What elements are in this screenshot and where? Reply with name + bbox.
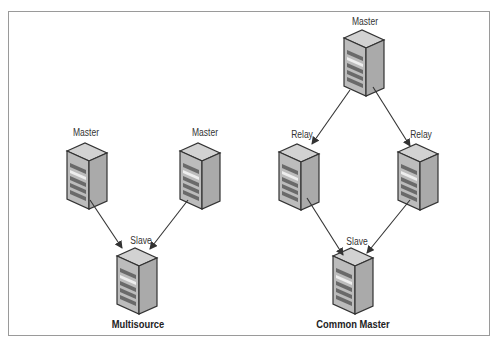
common-master-relay-1-server-icon bbox=[279, 144, 319, 210]
common-master-relay-2-label: Relay bbox=[410, 129, 432, 140]
multisource-slave-label: Slave bbox=[130, 235, 151, 246]
arrow-master-to-relay1 bbox=[312, 90, 350, 144]
common-master-master-label: Master bbox=[352, 16, 378, 27]
arrow-master-to-relay2 bbox=[373, 87, 410, 146]
arrow-relay1-to-slave bbox=[307, 198, 343, 255]
common-master-slave-label: Slave bbox=[346, 236, 367, 247]
common-master-caption: Common Master bbox=[316, 318, 389, 330]
arrow-master2-to-slave bbox=[150, 200, 188, 249]
multisource-master-2-label: Master bbox=[192, 127, 218, 138]
common-master-relay-2-server-icon bbox=[398, 144, 438, 210]
multisource-slave-server-icon bbox=[117, 248, 157, 314]
common-master-relay-1-label: Relay bbox=[291, 129, 313, 140]
multisource-master-2-server-icon bbox=[180, 143, 220, 209]
multisource-master-1-label: Master bbox=[73, 127, 99, 138]
arrow-master1-to-slave bbox=[90, 200, 122, 248]
multisource-caption: Multisource bbox=[112, 318, 164, 330]
replication-topology-diagram bbox=[0, 0, 499, 347]
arrow-relay2-to-slave bbox=[367, 200, 410, 253]
common-master-slave-server-icon bbox=[333, 248, 373, 314]
common-master-master-server-icon bbox=[344, 30, 384, 96]
multisource-master-1-server-icon bbox=[67, 143, 107, 209]
